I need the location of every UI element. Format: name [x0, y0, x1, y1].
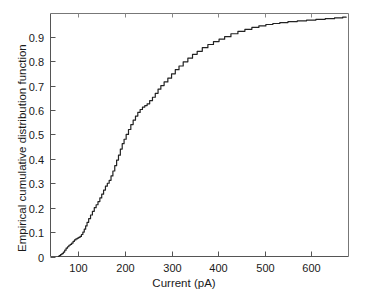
axes-frame: [51, 14, 349, 257]
x-tick-label: 300: [163, 262, 181, 274]
x-tick-label: 200: [116, 262, 134, 274]
plot-canvas: [0, 0, 368, 302]
ecdf-figure: 00.10.20.30.40.50.60.70.80.9 10020030040…: [0, 0, 368, 302]
y-axis-label: Empirical cumulative distribution functi…: [16, 44, 28, 252]
x-tick-label: 100: [69, 262, 87, 274]
ecdf-curve: [58, 17, 346, 256]
x-tick-marks: [79, 14, 312, 257]
x-tick-label: 600: [302, 262, 320, 274]
x-tick-label: 500: [256, 262, 274, 274]
y-tick-marks: [51, 38, 56, 258]
y-axis-label-container: Empirical cumulative distribution functi…: [2, 0, 20, 302]
x-tick-label: 400: [209, 262, 227, 274]
x-axis-label: Current (pA): [0, 277, 368, 289]
